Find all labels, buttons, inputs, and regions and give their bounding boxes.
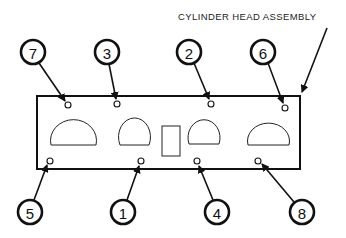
bolt-hole-8: [255, 158, 261, 164]
bolt-hole-6: [282, 105, 288, 111]
bolt-hole-1: [138, 158, 144, 164]
bolt-holes: [47, 101, 288, 164]
leader-arrow-3: [109, 64, 116, 99]
leader-arrow-4: [199, 166, 213, 200]
combustion-chamber-1: [51, 120, 97, 145]
callout-number-6: 6: [259, 45, 267, 62]
bolt-hole-5: [47, 158, 53, 164]
callout-number-4: 4: [213, 205, 221, 222]
callout-number-3: 3: [103, 45, 111, 62]
combustion-chamber-3: [188, 120, 220, 144]
leader-arrow-5: [34, 165, 47, 200]
callout-number-8: 8: [298, 205, 306, 222]
leader-arrow-2: [194, 63, 209, 99]
bolt-hole-2: [208, 101, 214, 107]
cylinder-head-diagram: 7 3 2 6 5 1 4 8: [0, 0, 346, 238]
cylinder-head-outline: [37, 96, 300, 169]
bolt-hole-4: [194, 158, 200, 164]
bolt-hole-3: [114, 101, 120, 107]
leader-arrow-1: [127, 166, 139, 200]
assembly-leader-arrow: [302, 28, 327, 92]
callout-number-7: 7: [29, 45, 37, 62]
callout-number-1: 1: [119, 205, 127, 222]
combustion-chamber-2: [119, 118, 151, 145]
center-port: [162, 126, 180, 156]
callout-number-5: 5: [26, 205, 34, 222]
combustion-chamber-4: [247, 123, 289, 145]
bolt-hole-7: [65, 102, 71, 108]
callout-number-2: 2: [185, 45, 193, 62]
